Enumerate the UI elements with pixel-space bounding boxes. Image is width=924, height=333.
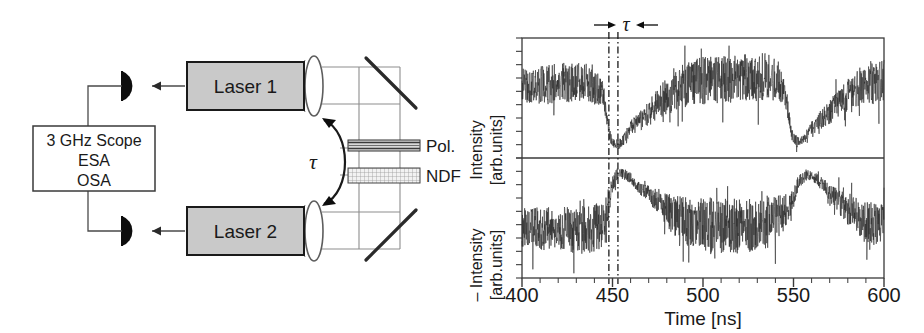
upper-ylabel-line1: Intensity — [468, 120, 485, 180]
polarizer — [348, 140, 420, 151]
instrument-box: 3 GHz Scope ESA OSA — [33, 126, 155, 191]
laser2-output-arrow — [152, 227, 185, 236]
x-tick-label: 400 — [505, 284, 538, 306]
tau-interval-marker: τ — [594, 13, 658, 35]
instrument-line-3: OSA — [77, 172, 111, 189]
upper-ylabel-line2: [arb.units] — [488, 115, 505, 185]
tau-symbol-schematic: τ — [309, 149, 318, 174]
ndf-label: NDF — [426, 167, 461, 186]
x-tick-label: 450 — [596, 284, 629, 306]
y-axis-ticks — [516, 38, 522, 278]
x-axis-tick-labels: 400450500550600 — [505, 284, 900, 306]
x-axis-label: Time [ns] — [664, 308, 741, 329]
laser2-label: Laser 2 — [214, 221, 277, 242]
photodetector-bottom — [122, 216, 132, 246]
lens-top — [305, 56, 323, 116]
x-tick-label: 550 — [777, 284, 810, 306]
lens-bottom — [305, 201, 323, 261]
tau-coupling-arrow: τ — [309, 118, 345, 206]
lower-ylabel-line1: – Intensity — [468, 229, 485, 302]
neutral-density-filter — [348, 168, 420, 183]
time-series-plot: Intensity [arb.units] – Intensity [arb.u… — [464, 0, 924, 333]
x-tick-label: 500 — [686, 284, 719, 306]
mirror-bottom — [366, 210, 416, 260]
photodetector-top — [122, 71, 132, 101]
laser1-label: Laser 1 — [214, 76, 277, 97]
polarizer-label: Pol. — [426, 137, 455, 156]
laser1-box: Laser 1 — [187, 62, 304, 110]
tau-symbol-plot: τ — [622, 13, 630, 35]
experimental-setup-schematic: Pol. NDF Laser 1 Laser 2 — [0, 0, 470, 333]
instrument-line-2: ESA — [78, 152, 110, 169]
figure-root: Pol. NDF Laser 1 Laser 2 — [0, 0, 924, 333]
mirror-top — [366, 58, 416, 108]
instrument-line-1: 3 GHz Scope — [46, 132, 141, 149]
x-tick-label: 600 — [867, 284, 900, 306]
lower-ylabel-line2: [arb.units] — [488, 230, 505, 300]
laser2-box: Laser 2 — [187, 207, 304, 255]
laser1-output-arrow — [152, 82, 185, 91]
